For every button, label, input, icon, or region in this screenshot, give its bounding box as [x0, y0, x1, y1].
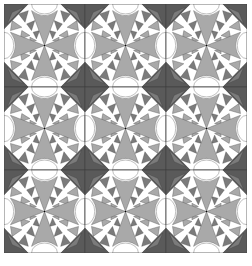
quilt-block — [166, 170, 247, 253]
quilt-block — [4, 4, 85, 87]
quilt-block — [4, 87, 85, 170]
quilt-block — [85, 170, 166, 253]
quilt-block — [4, 170, 85, 253]
quilt-block — [85, 87, 166, 170]
quilt-block — [85, 4, 166, 87]
quilt-block — [166, 4, 247, 87]
quilt-pattern — [4, 4, 247, 253]
quilt-grid — [4, 4, 247, 253]
quilt-block — [166, 87, 247, 170]
